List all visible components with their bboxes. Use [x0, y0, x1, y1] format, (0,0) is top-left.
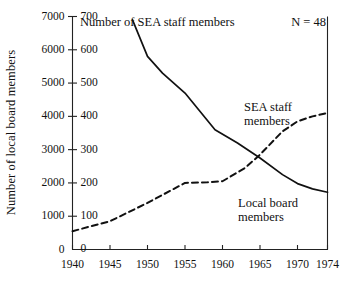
y-tick-label-sea-100: 100	[81, 209, 107, 221]
x-tick-label-1974: 1974	[308, 258, 344, 270]
x-tick-label-1940: 1940	[53, 258, 93, 270]
y-tick-label-sea-400: 400	[81, 109, 107, 121]
y-tick-label-local-0: 0	[31, 243, 65, 255]
y-tick-label-sea-600: 600	[81, 43, 107, 55]
y-tick-label-local-2000: 2000	[31, 176, 65, 188]
data-series-group	[73, 20, 328, 231]
series-line-sea-staff-members	[73, 113, 328, 231]
y-tick-label-local-4000: 4000	[31, 109, 65, 121]
y-tick-label-sea-300: 300	[81, 143, 107, 155]
axis-frame	[73, 17, 328, 250]
x-tick-label-1955: 1955	[165, 258, 205, 270]
y-tick-label-sea-700: 700	[81, 10, 107, 22]
axis-ticks	[68, 17, 328, 250]
chart-figure: Number of local board members Number of …	[0, 0, 344, 284]
x-tick-label-1965: 1965	[240, 258, 280, 270]
y-tick-label-sea-500: 500	[81, 76, 107, 88]
y-tick-label-local-6000: 6000	[31, 43, 65, 55]
y-tick-label-sea-200: 200	[81, 176, 107, 188]
y-tick-label-local-3000: 3000	[31, 143, 65, 155]
y-tick-label-local-5000: 5000	[31, 76, 65, 88]
x-tick-label-1960: 1960	[203, 258, 243, 270]
x-tick-label-1950: 1950	[128, 258, 168, 270]
series-line-local-board-members	[133, 20, 328, 192]
y-tick-label-local-1000: 1000	[31, 209, 65, 221]
y-tick-label-local-7000: 7000	[31, 10, 65, 22]
y-tick-label-sea-0: 0	[81, 242, 107, 254]
x-tick-label-1945: 1945	[90, 258, 130, 270]
